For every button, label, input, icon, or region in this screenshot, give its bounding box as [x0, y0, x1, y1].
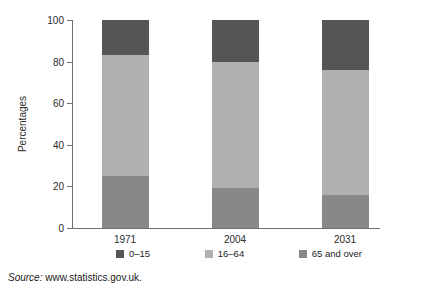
legend-label: 0–15: [129, 248, 150, 259]
x-axis-line: [72, 228, 380, 229]
bar-segment[interactable]: [102, 55, 149, 176]
plot-area: 020406080100 197120042031: [72, 20, 380, 228]
source-prefix: Source:: [8, 272, 42, 283]
legend-swatch-icon: [205, 250, 213, 258]
y-tick-mark: [67, 62, 72, 63]
chart-legend: 0–1516–6465 and over: [72, 248, 380, 259]
bar-segment[interactable]: [102, 176, 149, 228]
legend-label: 65 and over: [312, 248, 362, 259]
bar-group-1971[interactable]: 1971: [102, 20, 149, 228]
bar-segment[interactable]: [212, 188, 259, 228]
x-tick-label-2004: 2004: [212, 234, 259, 245]
source-note: Source: www.statistics.gov.uk.: [8, 272, 142, 283]
bar-group-2004[interactable]: 2004: [212, 20, 259, 228]
legend-item[interactable]: 0–15: [116, 248, 150, 259]
bar-segment[interactable]: [322, 70, 369, 195]
y-tick-mark: [67, 103, 72, 104]
y-tick-mark: [67, 186, 72, 187]
y-axis-title: Percentages: [17, 96, 28, 152]
y-tick-label: 40: [53, 139, 64, 150]
bar-segment[interactable]: [322, 20, 369, 70]
legend-item[interactable]: 16–64: [205, 248, 244, 259]
y-tick-mark: [67, 228, 72, 229]
bar-segment[interactable]: [322, 195, 369, 228]
bar-segment[interactable]: [212, 20, 259, 62]
source-url-text: www.statistics.gov.uk.: [42, 272, 141, 283]
legend-label: 16–64: [218, 248, 244, 259]
bar-segment[interactable]: [212, 62, 259, 189]
legend-swatch-icon: [116, 250, 124, 258]
y-axis-line: [72, 20, 73, 228]
y-tick-mark: [67, 145, 72, 146]
y-tick-label: 20: [53, 181, 64, 192]
x-tick-label-1971: 1971: [102, 234, 149, 245]
y-tick-label: 60: [53, 98, 64, 109]
y-tick-label: 100: [47, 15, 64, 26]
y-tick-label: 0: [58, 223, 64, 234]
stacked-bar[interactable]: [322, 20, 369, 228]
stacked-bar[interactable]: [102, 20, 149, 228]
bar-group-2031[interactable]: 2031: [322, 20, 369, 228]
legend-item[interactable]: 65 and over: [299, 248, 362, 259]
bar-segment[interactable]: [102, 20, 149, 55]
y-tick-label: 80: [53, 56, 64, 67]
x-tick-label-2031: 2031: [322, 234, 369, 245]
stacked-bar-chart-figure: Percentages 020406080100 197120042031 0–…: [0, 0, 433, 293]
y-tick-mark: [67, 20, 72, 21]
stacked-bar[interactable]: [212, 20, 259, 228]
legend-swatch-icon: [299, 250, 307, 258]
